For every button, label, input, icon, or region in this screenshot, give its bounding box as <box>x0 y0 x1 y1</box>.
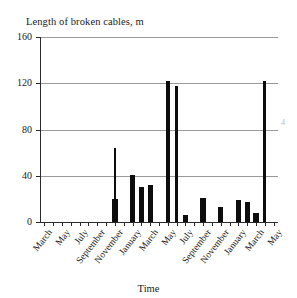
x-tick <box>212 222 213 226</box>
y-axis-label: 40 <box>22 171 32 181</box>
bar <box>245 202 250 222</box>
y-tick-0 <box>36 222 41 223</box>
bar <box>253 213 258 222</box>
gridline-80 <box>40 130 278 131</box>
x-tick <box>80 222 81 226</box>
gridline-40 <box>40 176 278 177</box>
gridline-160 <box>40 37 278 38</box>
chart-title: Length of broken cables, m <box>26 16 144 27</box>
y-tick-160 <box>36 37 41 38</box>
x-tick <box>238 222 239 226</box>
bar <box>130 175 135 222</box>
y-axis-label: 0 <box>27 217 32 227</box>
x-tick <box>53 222 54 226</box>
x-tick <box>133 222 134 226</box>
x-tick <box>141 222 142 226</box>
x-tick <box>159 222 160 226</box>
x-tick <box>88 222 89 226</box>
x-tick <box>230 222 231 226</box>
x-tick <box>168 222 169 226</box>
x-axis-label: March <box>32 228 55 253</box>
x-tick <box>150 222 151 226</box>
bar <box>236 200 241 222</box>
x-tick <box>62 222 63 226</box>
x-tick <box>97 222 98 226</box>
bar-base-stub <box>112 199 118 222</box>
x-tick <box>247 222 248 226</box>
bar <box>263 81 266 222</box>
x-tick <box>71 222 72 226</box>
y-tick-120 <box>36 83 41 84</box>
bar <box>139 187 144 222</box>
y-tick-80 <box>36 130 41 131</box>
bar <box>148 185 153 222</box>
x-tick <box>185 222 186 226</box>
y-tick-40 <box>36 176 41 177</box>
bar <box>175 86 178 222</box>
x-tick <box>256 222 257 226</box>
x-tick <box>177 222 178 226</box>
x-axis-label: May <box>54 228 72 248</box>
x-tick <box>106 222 107 226</box>
y-axis-label: 80 <box>22 125 32 135</box>
x-tick <box>203 222 204 226</box>
scan-speck: 4 <box>281 118 285 127</box>
x-axis-label: May <box>160 228 178 248</box>
x-tick <box>274 222 275 226</box>
plot-area: 04080120160 MarchMayJulySeptemberNovembe… <box>40 37 278 222</box>
x-tick <box>115 222 116 226</box>
y-axis-label: 160 <box>17 32 32 42</box>
x-tick <box>265 222 266 226</box>
bar <box>183 215 188 222</box>
bar <box>218 207 223 222</box>
bar <box>200 198 205 222</box>
bar <box>166 81 169 222</box>
x-axis-caption: Time <box>0 283 297 294</box>
y-axis-label: 120 <box>17 78 32 88</box>
x-tick <box>124 222 125 226</box>
gridline-120 <box>40 83 278 84</box>
bar-chart: Length of broken cables, m 04080120160 M… <box>0 0 297 298</box>
x-tick <box>221 222 222 226</box>
x-tick <box>194 222 195 226</box>
x-tick <box>44 222 45 226</box>
x-axis-label: May <box>266 228 284 248</box>
